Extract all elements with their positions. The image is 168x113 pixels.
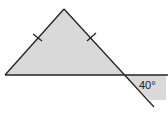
angle-label: 40° bbox=[139, 79, 156, 91]
triangle bbox=[5, 9, 124, 75]
triangle-diagram: 40° bbox=[0, 0, 168, 113]
